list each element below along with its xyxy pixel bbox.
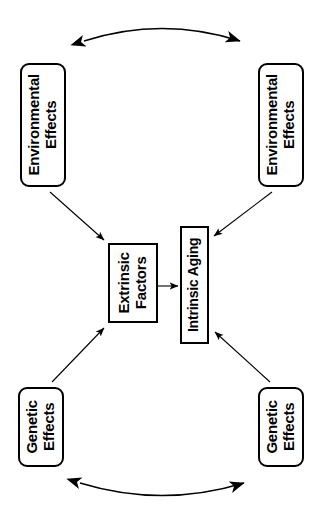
node-label-line1: Genetic	[263, 400, 280, 454]
node-label-line2: Factors	[133, 252, 150, 314]
node-label: Environmental Effects	[264, 74, 298, 176]
node-genetic-effects-right[interactable]: Genetic Effects	[258, 387, 304, 467]
node-label-line2: Effects	[41, 400, 58, 454]
connector-env-bottom-to-intrinsic	[214, 192, 272, 236]
node-label: Intrinsic Aging	[187, 238, 203, 332]
connector-arc-bottom	[80, 483, 244, 496]
node-extrinsic-factors[interactable]: Extrinsic Factors	[108, 243, 158, 323]
node-label: Genetic Effects	[264, 400, 298, 454]
node-label: Environmental Effects	[26, 74, 60, 176]
node-label: Extrinsic Factors	[116, 252, 150, 314]
node-label-line1: Intrinsic Aging	[186, 238, 202, 332]
connector-gen-left-to-extrinsic	[52, 328, 104, 382]
node-label-line2: Effects	[281, 74, 298, 176]
node-label: Genetic Effects	[24, 400, 58, 454]
node-label-line1: Genetic	[23, 400, 40, 454]
diagram-canvas: Environmental Effects Environmental Effe…	[0, 0, 324, 521]
node-environmental-effects-top[interactable]: Environmental Effects	[20, 63, 66, 187]
node-genetic-effects-left[interactable]: Genetic Effects	[18, 387, 64, 467]
node-label-line1: Extrinsic	[115, 252, 132, 314]
node-intrinsic-aging[interactable]: Intrinsic Aging	[180, 226, 209, 344]
node-label-line2: Effects	[281, 400, 298, 454]
node-label-line2: Effects	[43, 74, 60, 176]
node-environmental-effects-bottom[interactable]: Environmental Effects	[258, 63, 304, 187]
node-label-line1: Environmental	[263, 74, 280, 176]
connector-env-top-to-extrinsic	[50, 192, 104, 240]
connector-gen-right-to-intrinsic	[215, 332, 270, 382]
node-label-line1: Environmental	[25, 74, 42, 176]
connector-arc-top	[84, 29, 240, 42]
